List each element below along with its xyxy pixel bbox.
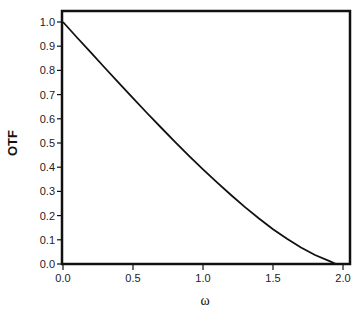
x-axis-title: ω xyxy=(200,293,209,308)
y-tick-label: 0.4 xyxy=(40,161,55,173)
y-axis-ticks: 0.00.10.20.30.40.50.60.70.80.91.0 xyxy=(40,16,62,270)
x-tick-label: 1.5 xyxy=(265,272,280,284)
otf-curve xyxy=(63,22,336,264)
y-tick-label: 0.0 xyxy=(40,258,55,270)
y-tick-label: 0.6 xyxy=(40,113,55,125)
y-tick-label: 0.9 xyxy=(40,40,55,52)
x-tick-label: 0.5 xyxy=(125,272,140,284)
y-tick-label: 0.5 xyxy=(40,137,55,149)
x-tick-label: 1.0 xyxy=(195,272,210,284)
y-tick-label: 0.1 xyxy=(40,234,55,246)
y-tick-label: 0.8 xyxy=(40,64,55,76)
y-tick-label: 0.7 xyxy=(40,89,55,101)
x-axis-ticks: 0.00.51.01.52.0 xyxy=(55,265,350,284)
y-tick-label: 1.0 xyxy=(40,16,55,28)
plot-frame xyxy=(62,11,350,264)
y-tick-label: 0.3 xyxy=(40,185,55,197)
x-tick-label: 0.0 xyxy=(55,272,70,284)
x-tick-label: 2.0 xyxy=(335,272,350,284)
otf-chart: 0.00.10.20.30.40.50.60.70.80.91.0 0.00.5… xyxy=(0,0,358,314)
y-tick-label: 0.2 xyxy=(40,210,55,222)
y-axis-title: OTF xyxy=(5,130,20,156)
